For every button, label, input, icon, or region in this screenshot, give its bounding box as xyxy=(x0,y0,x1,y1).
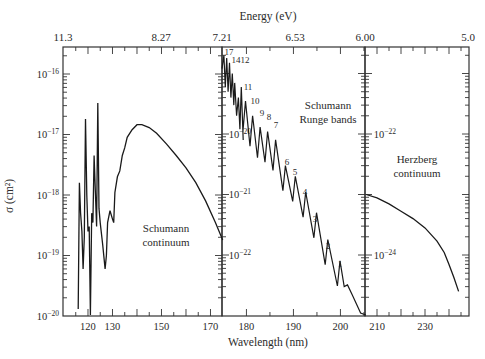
svg-text:10−17: 10−17 xyxy=(37,127,59,140)
band-label-9: 9 xyxy=(260,108,265,118)
svg-text:11.3: 11.3 xyxy=(54,31,73,43)
band-label-4: 4 xyxy=(303,187,308,197)
svg-text:120: 120 xyxy=(80,321,96,332)
svg-text:190: 190 xyxy=(286,321,302,332)
band-number-labels: 1714121110987654321 xyxy=(225,47,343,269)
svg-text:210: 210 xyxy=(369,321,385,332)
y-axis-title: σ (cm²) xyxy=(3,179,16,213)
schumann-continuum-curve xyxy=(78,103,223,315)
svg-text:Runge bands: Runge bands xyxy=(299,113,356,125)
band-label-6: 6 xyxy=(285,157,290,167)
svg-text:150: 150 xyxy=(154,321,170,332)
top-axis-title: Energy (eV) xyxy=(240,10,297,23)
svg-text:10−19: 10−19 xyxy=(37,248,59,261)
herzberg-continuum-curve xyxy=(366,195,458,292)
svg-text:continuum: continuum xyxy=(393,167,440,179)
region-label-herzberg-continuum: Herzberg continuum xyxy=(393,153,440,179)
panel-frames xyxy=(63,47,469,316)
svg-text:10−22: 10−22 xyxy=(229,248,251,261)
band-label-8: 8 xyxy=(267,112,272,122)
schumann-runge-bands-curve xyxy=(222,55,366,315)
svg-text:170: 170 xyxy=(203,321,219,332)
svg-text:6.00: 6.00 xyxy=(355,31,375,43)
band-label-1: 1 xyxy=(338,259,343,269)
svg-text:Herzberg: Herzberg xyxy=(397,153,438,165)
region-label-schumann-runge-bands: Schumann Runge bands xyxy=(299,99,356,125)
x-tick-labels: 120130150170180190200210230 xyxy=(80,321,433,332)
svg-text:230: 230 xyxy=(417,321,433,332)
band-label-3: 3 xyxy=(313,214,318,224)
svg-text:continuum: continuum xyxy=(142,236,189,248)
chart-canvas: Energy (eV) Wavelength (nm) σ (cm²) 11.3… xyxy=(0,0,485,359)
svg-text:180: 180 xyxy=(239,321,255,332)
svg-text:200: 200 xyxy=(333,321,349,332)
svg-text:130: 130 xyxy=(105,321,121,332)
svg-text:10−20: 10−20 xyxy=(37,309,59,322)
band-label-5: 5 xyxy=(293,167,298,177)
svg-text:7.21: 7.21 xyxy=(212,31,231,43)
band-label-10: 10 xyxy=(251,96,261,106)
band-label-12: 12 xyxy=(241,55,250,65)
svg-text:Schumann: Schumann xyxy=(143,222,190,234)
band-label-7: 7 xyxy=(274,120,279,130)
axis-ticks xyxy=(63,47,469,316)
svg-text:10−16: 10−16 xyxy=(37,67,59,80)
svg-text:5.0: 5.0 xyxy=(461,31,475,43)
svg-text:10−21: 10−21 xyxy=(229,187,251,200)
band-label-2: 2 xyxy=(326,241,331,251)
svg-text:10−24: 10−24 xyxy=(374,248,396,261)
top-axis-tick-labels: 11.3 8.27 7.21 6.53 6.00 5.0 xyxy=(54,31,476,43)
svg-text:6.53: 6.53 xyxy=(285,31,305,43)
svg-text:10−22: 10−22 xyxy=(374,127,396,140)
band-label-11: 11 xyxy=(244,82,253,92)
region-label-schumann-continuum: Schumann continuum xyxy=(142,222,189,248)
svg-text:8.27: 8.27 xyxy=(151,31,171,43)
svg-text:Schumann: Schumann xyxy=(305,99,352,111)
x-axis-title: Wavelength (nm) xyxy=(228,336,308,349)
svg-text:10−18: 10−18 xyxy=(37,188,59,201)
